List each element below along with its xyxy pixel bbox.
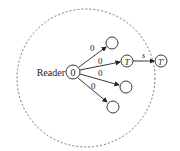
edge-label-lower: 0	[98, 68, 103, 78]
node-T-prime-label: T'	[158, 58, 164, 67]
dashed-boundary-circle	[17, 9, 155, 147]
reader-label: Reader	[37, 67, 66, 78]
edge-label-s: s	[142, 51, 145, 60]
node-source-label: 0	[71, 67, 76, 78]
edge-label-top: 0	[90, 43, 95, 53]
node-top	[106, 37, 118, 49]
edge-label-bottom: 0	[91, 81, 96, 91]
node-bottom	[107, 101, 119, 113]
edge-label-T: 0	[98, 56, 103, 66]
node-lower	[120, 81, 132, 93]
graph-diagram: 0 0 0 0 s 0 Reader T T'	[0, 0, 180, 151]
